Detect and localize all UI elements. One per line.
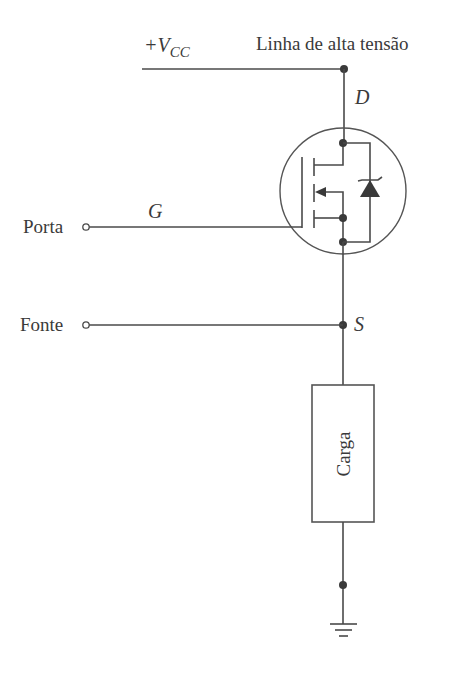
supply-rail [142, 65, 348, 73]
gate-terminal-label: Porta [23, 216, 64, 237]
source-terminal[interactable] [83, 322, 89, 328]
diode-icon [360, 180, 380, 197]
mosfet-symbol [280, 128, 406, 254]
ground-symbol [330, 522, 357, 636]
gate-label: G [148, 200, 163, 222]
load-label: Carga [333, 431, 354, 477]
vcc-label: +VCC [144, 34, 191, 60]
gate-terminal[interactable] [83, 224, 89, 230]
source-label: S [354, 313, 364, 335]
source-terminal-wire [83, 322, 343, 328]
circuit-diagram: +VCC Linha de alta tensão D Porta G [0, 0, 458, 677]
source-terminal-label: Fonte [20, 314, 63, 335]
high-voltage-line-label: Linha de alta tensão [256, 33, 408, 54]
arrow-icon [315, 187, 326, 197]
gate-wire [83, 224, 302, 230]
drain-label: D [354, 86, 370, 108]
